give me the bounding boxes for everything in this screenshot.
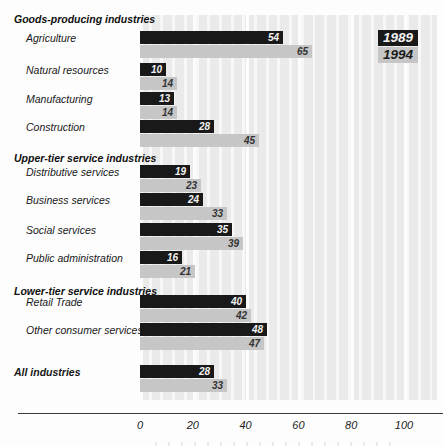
row-label-all-industries: All industries: [14, 366, 81, 378]
legend: 19891994: [378, 30, 418, 64]
legend-item-1994: 1994: [378, 47, 418, 63]
bar-1994-natural-resources: 14: [140, 77, 177, 90]
bar-1989-construction: 28: [140, 120, 214, 133]
bar-1994-construction: 45: [140, 134, 259, 147]
bar-1994-manufacturing: 14: [140, 106, 177, 119]
x-tick-60: 60: [292, 419, 304, 432]
row-label-natural-resources: Natural resources: [26, 64, 109, 76]
bar-1994-agriculture: 65: [140, 45, 312, 58]
bar-1989-public-administration: 16: [140, 251, 182, 264]
row-label-retail-trade: Retail Trade: [26, 296, 82, 308]
row-label-social-services: Social services: [26, 224, 96, 236]
bar-1989-distributive-services: 19: [140, 165, 190, 178]
cut-off-caption-fragment: [155, 442, 395, 446]
row-label-manufacturing: Manufacturing: [26, 93, 93, 105]
row-label-distributive-services: Distributive services: [26, 166, 119, 178]
bar-1994-business-services: 33: [140, 207, 227, 220]
row-label-public-administration: Public administration: [26, 252, 123, 264]
bar-1989-natural-resources: 10: [140, 63, 166, 76]
section-header-upper-tier-service-industries: Upper-tier service industries: [14, 152, 156, 164]
bar-chart: 5465101413142845192324333539162140424847…: [0, 0, 444, 446]
x-tick-100: 100: [395, 419, 413, 432]
bar-1994-all-industries: 33: [140, 379, 227, 392]
x-tick-80: 80: [345, 419, 357, 432]
row-label-agriculture: Agriculture: [26, 32, 76, 44]
x-axis-line: [18, 413, 443, 414]
section-header-goods-producing-industries: Goods-producing industries: [14, 13, 155, 25]
x-tick-40: 40: [239, 419, 251, 432]
bar-1994-retail-trade: 42: [140, 309, 251, 322]
bar-1994-other-consumer-services: 47: [140, 337, 264, 350]
bar-1989-other-consumer-services: 48: [140, 323, 267, 336]
bar-1989-social-services: 35: [140, 223, 232, 236]
row-label-construction: Construction: [26, 121, 85, 133]
bar-1989-all-industries: 28: [140, 365, 214, 378]
row-label-business-services: Business services: [26, 194, 110, 206]
row-label-other-consumer-services: Other consumer services: [26, 324, 143, 336]
x-tick-0: 0: [137, 419, 143, 432]
bar-1989-business-services: 24: [140, 193, 203, 206]
x-tick-20: 20: [187, 419, 199, 432]
bar-1994-public-administration: 21: [140, 265, 195, 278]
legend-item-1989: 1989: [378, 30, 418, 46]
bar-1994-social-services: 39: [140, 237, 243, 250]
bar-1994-distributive-services: 23: [140, 179, 201, 192]
bar-1989-manufacturing: 13: [140, 92, 174, 105]
bar-1989-agriculture: 54: [140, 31, 283, 44]
